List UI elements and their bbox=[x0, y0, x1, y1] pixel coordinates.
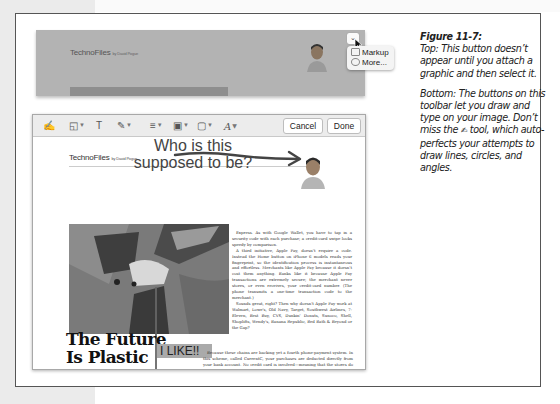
markup-toolbar: ✍ ◱▼ T ✎▼ ≡▼ ▣▼ ▢▼ A▼ Cancel Done bbox=[33, 115, 365, 137]
chevron-down-icon: ▼ bbox=[79, 122, 85, 128]
sketch-icon: ✍ bbox=[43, 120, 55, 131]
shapes-tool-button[interactable]: ◱▼ bbox=[69, 119, 85, 132]
signature-icon: ✎ bbox=[117, 120, 125, 131]
markup-window: ✍ ◱▼ T ✎▼ ≡▼ ▣▼ ▢▼ A▼ Cancel Done Techno… bbox=[32, 114, 366, 370]
article-illustration bbox=[69, 224, 229, 334]
sketch-tool-button[interactable]: ✍ bbox=[43, 119, 55, 132]
document-image: TechnoFiles by David Pogue Who is this s… bbox=[33, 137, 365, 370]
markup-popup-menu: Markup More... bbox=[347, 46, 394, 70]
shapes-icon: ◱ bbox=[69, 120, 78, 131]
article-body-wide: Because these chains are backing yet a f… bbox=[203, 350, 353, 370]
sketch-tool-icon: ✍ bbox=[461, 126, 467, 135]
chevron-down-icon: ▼ bbox=[232, 122, 237, 129]
menu-item-markup[interactable]: Markup bbox=[351, 48, 389, 58]
chevron-down-icon: ▼ bbox=[207, 122, 213, 128]
border-color-icon: ▣ bbox=[173, 120, 182, 131]
sign-tool-button[interactable]: ✎▼ bbox=[117, 119, 132, 132]
fill-color-icon: ▢ bbox=[197, 120, 206, 131]
text-icon: T bbox=[96, 120, 102, 131]
more-icon bbox=[351, 58, 360, 66]
article-headline: The Future Is Plastic bbox=[66, 330, 166, 366]
caption-top: Top: This button doesn’t appear until yo… bbox=[420, 43, 537, 78]
arrow-annotation[interactable] bbox=[173, 149, 303, 169]
portrait-icon bbox=[301, 155, 325, 189]
done-button[interactable]: Done bbox=[327, 118, 361, 134]
portrait-icon bbox=[307, 42, 327, 72]
masthead: TechnoFiles by David Pogue bbox=[70, 48, 138, 57]
fill-color-button[interactable]: ▢▼ bbox=[197, 119, 213, 132]
headline-bar bbox=[70, 87, 228, 96]
chevron-down-icon: ▼ bbox=[157, 122, 163, 128]
figure-caption: Figure 11-7:Top: This button doesn’t app… bbox=[420, 31, 546, 182]
cancel-button[interactable]: Cancel bbox=[283, 118, 323, 134]
figure-number: Figure 11-7: bbox=[420, 31, 546, 43]
chevron-down-icon: ▼ bbox=[183, 122, 189, 128]
chevron-down-icon: ▼ bbox=[126, 122, 132, 128]
markup-icon bbox=[351, 48, 360, 56]
line-style-icon: ≡ bbox=[150, 120, 156, 131]
masthead: TechnoFiles by David Pogue bbox=[69, 153, 137, 162]
text-style-icon: A bbox=[224, 121, 231, 132]
text-tool-button[interactable]: T bbox=[96, 119, 102, 132]
border-color-button[interactable]: ▣▼ bbox=[173, 119, 189, 132]
article-body-column: Express. As with Google Wallet, you have… bbox=[232, 230, 352, 330]
line-style-button[interactable]: ≡▼ bbox=[150, 119, 163, 132]
menu-item-more[interactable]: More... bbox=[351, 58, 387, 68]
text-style-button[interactable]: A▼ bbox=[224, 119, 237, 132]
page-top-margin bbox=[95, 0, 560, 12]
